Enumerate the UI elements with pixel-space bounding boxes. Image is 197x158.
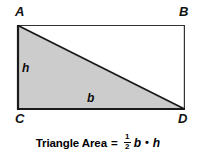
fraction-numerator: 1 <box>124 133 130 142</box>
formula-height-variable: h <box>153 136 160 150</box>
formula-text-label: Triangle Area <box>36 137 107 149</box>
height-label: h <box>22 62 29 74</box>
triangle-area-figure: A B C D h b Triangle Area = 1 2 b • h <box>0 0 197 158</box>
vertex-label-a: A <box>15 5 24 18</box>
vertex-label-b: B <box>179 5 188 18</box>
vertex-label-d: D <box>178 112 187 125</box>
formula-base-variable: b <box>134 136 141 150</box>
multiplication-dot-icon: • <box>145 137 149 148</box>
vertex-label-c: C <box>15 112 24 125</box>
area-formula: Triangle Area = 1 2 b • h <box>0 133 197 152</box>
fraction-denominator: 2 <box>124 143 130 152</box>
base-label: b <box>87 92 94 104</box>
one-half-fraction: 1 2 <box>124 133 131 152</box>
formula-equals-sign: = <box>111 137 118 149</box>
